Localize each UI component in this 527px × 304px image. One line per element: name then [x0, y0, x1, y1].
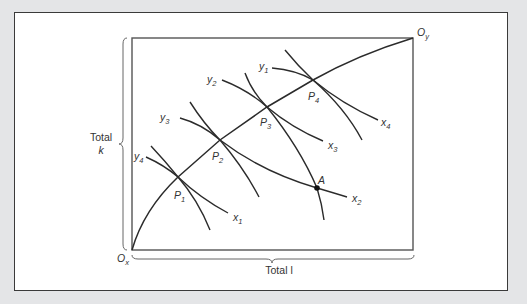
point-p4-label: P4	[308, 90, 319, 105]
total-k-label-line2: k	[98, 144, 104, 156]
isoquant-y4	[151, 146, 210, 230]
bottom-brace	[132, 255, 414, 263]
edgeworth-box-diagram: Ox Oy Total k Total l P1 P2 P3 P4 A x1 x…	[0, 0, 527, 304]
curve-y1-label: y1	[258, 60, 268, 75]
point-a-marker	[314, 185, 320, 191]
point-p1-label: P1	[174, 189, 185, 204]
curve-y2-label: y2	[206, 73, 217, 88]
curve-y4-label: y4	[133, 150, 143, 165]
curve-y3-label: y3	[159, 111, 170, 126]
origin-oy-label: Oy	[417, 26, 430, 41]
isoquant-x1	[146, 157, 228, 213]
total-k-label-line1: Total	[90, 131, 112, 143]
point-p3-label: P3	[260, 116, 272, 131]
left-brace	[119, 38, 127, 250]
edgeworth-box	[132, 38, 413, 250]
contract-curve	[132, 38, 413, 250]
isoquant-y1	[285, 50, 362, 140]
point-a-label: A	[317, 174, 325, 186]
origin-ox-label: Ox	[117, 252, 129, 267]
curve-x2-label: x2	[351, 192, 362, 207]
curve-x4-label: x4	[380, 116, 390, 131]
isoquant-y3	[190, 102, 259, 197]
curve-x3-label: x3	[327, 139, 338, 154]
curve-x1-label: x1	[232, 211, 242, 226]
point-p2-label: P2	[212, 150, 224, 165]
total-l-label: Total l	[265, 264, 292, 276]
